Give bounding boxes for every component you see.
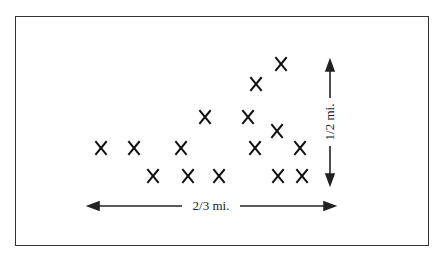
width-label: 2/3 mi. bbox=[182, 198, 240, 214]
dimension-arrows bbox=[0, 0, 443, 262]
arrow-up-icon bbox=[326, 60, 334, 71]
height-label: 1/2 mi. bbox=[322, 98, 338, 146]
arrow-left-icon bbox=[88, 202, 99, 210]
arrow-down-icon bbox=[326, 174, 334, 185]
diagram-canvas: 2/3 mi. 1/2 mi. bbox=[0, 0, 443, 262]
arrow-right-icon bbox=[324, 202, 335, 210]
